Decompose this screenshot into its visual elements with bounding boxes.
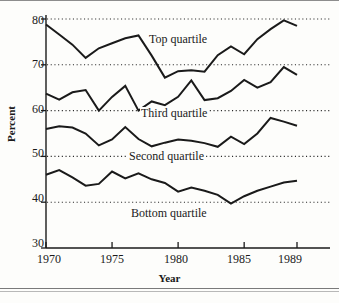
y-tick-label-40: 40	[14, 192, 44, 204]
series-label-second-quartile: Second quartile	[128, 150, 205, 162]
y-tick-label-60: 60	[14, 103, 44, 115]
series-line-second-quartile	[46, 118, 297, 147]
scan-rule-bottom-secondary	[0, 291, 339, 292]
x-tick-label-1970: 1970	[27, 253, 71, 265]
y-tick-label-80: 80	[14, 14, 44, 26]
scan-rule-bottom	[0, 288, 339, 289]
y-tick-label-70: 70	[14, 58, 44, 70]
series-line-bottom-quartile	[46, 170, 297, 203]
x-tick-label-1985: 1985	[217, 253, 261, 265]
x-axis-title: Year	[0, 272, 339, 284]
series-label-top-quartile: Top quartile	[148, 33, 208, 45]
y-tick-label-50: 50	[14, 147, 44, 159]
series-label-third-quartile: Third quartile	[140, 107, 208, 119]
figure-container: Percent Year 80 70 60 50 40 30 1970 1975…	[0, 0, 339, 303]
x-tick-label-1975: 1975	[90, 253, 134, 265]
series-line-top-quartile	[46, 20, 297, 77]
x-tick-label-1989: 1989	[268, 253, 312, 265]
series-label-bottom-quartile: Bottom quartile	[130, 207, 208, 219]
x-tick-label-1980: 1980	[154, 253, 198, 265]
y-tick-label-30: 30	[14, 237, 44, 249]
